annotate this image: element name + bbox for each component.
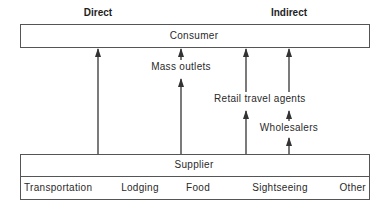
indirect-consumer-arrowhead-icon — [286, 48, 292, 57]
retail-arrowhead-icon — [243, 110, 249, 119]
consumer-arrowhead-icon — [178, 48, 184, 57]
retail-consumer-arrowhead-icon — [243, 48, 249, 57]
mass-outlets-arrowhead-icon — [178, 78, 184, 87]
direct-arrowhead-icon — [95, 48, 101, 57]
flow-arrows — [0, 0, 387, 208]
wholesalers-arrowhead-icon — [286, 137, 292, 146]
wholesalers-retail-arrowhead-icon — [286, 110, 292, 119]
